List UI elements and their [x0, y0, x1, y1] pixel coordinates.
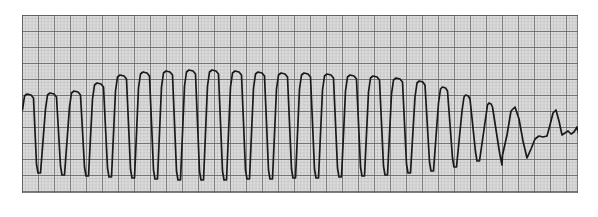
- ecg-grid-paper: [22, 15, 578, 193]
- figure-caption: Monomorphic wide-complex tachycardia deg…: [0, 16, 1, 17]
- page-title: ECG Rhythm Strip: [0, 21, 1, 22]
- ecg-grid: [22, 15, 578, 193]
- ecg-figure: ECG Rhythm Strip Monomorphic wide-comple…: [0, 0, 598, 217]
